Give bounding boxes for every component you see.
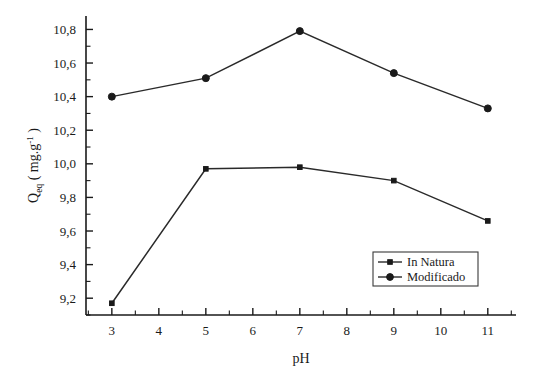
y-tick-label: 9,2 bbox=[60, 291, 76, 306]
x-tick-label: 5 bbox=[203, 323, 210, 338]
legend-label-modificado: Modificado bbox=[407, 270, 465, 284]
x-tick-label: 10 bbox=[434, 323, 447, 338]
x-tick-label: 7 bbox=[297, 323, 304, 338]
legend-marker-circle bbox=[387, 274, 394, 281]
data-point-in-natura-7 bbox=[298, 165, 303, 170]
x-axis-title: pH bbox=[292, 351, 309, 366]
y-tick-label: 9,8 bbox=[60, 190, 76, 205]
line-chart: 9,29,49,69,810,010,210,410,610,834567891… bbox=[0, 0, 538, 375]
x-tick-label: 6 bbox=[250, 323, 257, 338]
data-point-modificado-9 bbox=[390, 70, 397, 77]
y-tick-label: 10,4 bbox=[53, 89, 76, 104]
chart-figure: 9,29,49,69,810,010,210,410,610,834567891… bbox=[0, 0, 538, 375]
x-tick-label: 9 bbox=[391, 323, 398, 338]
x-tick-label: 3 bbox=[109, 323, 116, 338]
y-axis-title: Qeq ( mg.g-1 ) bbox=[25, 128, 44, 203]
data-point-in-natura-9 bbox=[392, 178, 397, 183]
data-point-modificado-7 bbox=[296, 28, 303, 35]
data-point-in-natura-3 bbox=[110, 301, 115, 306]
x-tick-label: 4 bbox=[156, 323, 163, 338]
data-point-in-natura-11 bbox=[486, 219, 491, 224]
y-tick-label: 9,4 bbox=[60, 257, 77, 272]
data-point-modificado-3 bbox=[108, 93, 115, 100]
svg-text:Qeq ( mg.g-1 ): Qeq ( mg.g-1 ) bbox=[25, 128, 44, 203]
y-tick-label: 10,0 bbox=[53, 156, 76, 171]
data-point-modificado-11 bbox=[484, 105, 491, 112]
data-point-in-natura-5 bbox=[204, 167, 209, 172]
y-tick-label: 10,8 bbox=[53, 22, 76, 37]
legend-label-in-natura: In Natura bbox=[407, 255, 455, 269]
series-line-modificado bbox=[112, 31, 488, 108]
y-tick-label: 10,2 bbox=[53, 123, 76, 138]
x-tick-label: 11 bbox=[482, 323, 495, 338]
data-point-modificado-5 bbox=[202, 75, 209, 82]
y-tick-label: 10,6 bbox=[53, 56, 76, 71]
y-tick-label: 9,6 bbox=[60, 224, 77, 239]
x-tick-label: 8 bbox=[344, 323, 351, 338]
legend-marker-square bbox=[388, 260, 393, 265]
